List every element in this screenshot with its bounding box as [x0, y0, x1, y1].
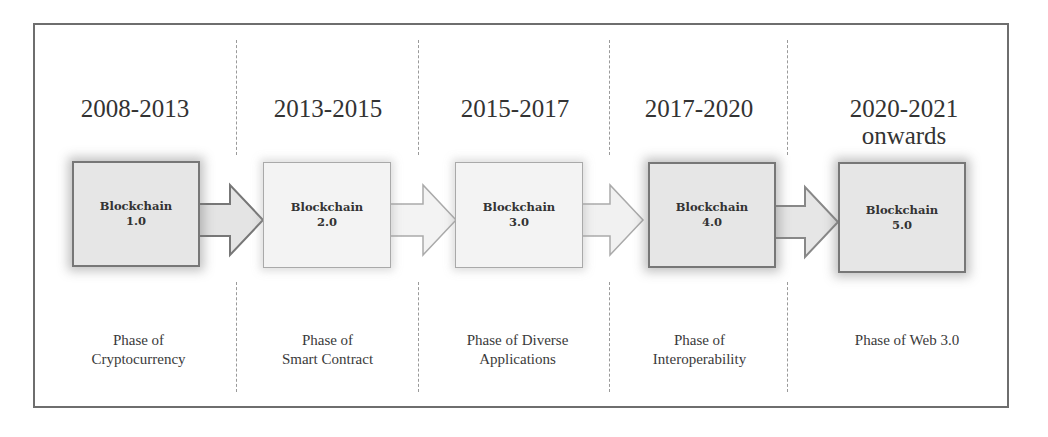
phase-label-5-line1: Phase of Web 3.0	[812, 331, 1002, 350]
stage-box-3-title: Blockchain	[483, 200, 555, 215]
divider-4-bottom	[787, 282, 788, 392]
phase-label-2: Phase of Smart Contract	[240, 331, 415, 369]
arrow-right-icon-3	[575, 185, 647, 255]
divider-3-bottom	[609, 282, 610, 392]
phase-label-2-line1: Phase of	[240, 331, 415, 350]
stage-box-1-version: 1.0	[126, 214, 146, 229]
stage-box-blockchain-4: Blockchain 4.0	[648, 162, 776, 268]
stage-box-blockchain-2: Blockchain 2.0	[263, 162, 391, 268]
divider-1-bottom	[236, 282, 237, 392]
phase-label-1-line2: Cryptocurrency	[51, 350, 226, 369]
period-label-1: 2008-2013	[50, 95, 220, 122]
stage-box-1-title: Blockchain	[100, 199, 172, 214]
divider-1-top	[236, 40, 237, 155]
stage-box-blockchain-5: Blockchain 5.0	[838, 162, 966, 273]
stage-box-blockchain-3: Blockchain 3.0	[455, 162, 583, 268]
divider-4-top	[787, 40, 788, 155]
phase-label-3: Phase of Diverse Applications	[430, 331, 605, 369]
period-label-3: 2015-2017	[430, 95, 600, 122]
phase-label-3-line2: Applications	[430, 350, 605, 369]
stage-box-4-title: Blockchain	[676, 200, 748, 215]
stage-box-5-version: 5.0	[892, 218, 912, 233]
arrow-right-icon-2	[388, 185, 460, 255]
arrow-right-icon-4	[770, 187, 842, 257]
phase-label-1: Phase of Cryptocurrency	[51, 331, 226, 369]
divider-2-top	[418, 40, 419, 155]
stage-box-2-title: Blockchain	[291, 200, 363, 215]
stage-box-2-version: 2.0	[317, 215, 337, 230]
period-label-5-line2: onwards	[819, 122, 989, 149]
phase-label-2-line2: Smart Contract	[240, 350, 415, 369]
stage-box-blockchain-1: Blockchain 1.0	[72, 161, 200, 267]
phase-label-4: Phase of Interoperability	[612, 331, 787, 369]
phase-label-3-line1: Phase of Diverse	[430, 331, 605, 350]
phase-label-4-line2: Interoperability	[612, 350, 787, 369]
phase-label-5: Phase of Web 3.0	[812, 331, 1002, 350]
phase-label-4-line1: Phase of	[612, 331, 787, 350]
divider-2-bottom	[418, 282, 419, 392]
period-label-4: 2017-2020	[614, 95, 784, 122]
phase-label-1-line1: Phase of	[51, 331, 226, 350]
arrow-right-icon-1	[195, 185, 267, 255]
period-label-2: 2013-2015	[243, 95, 413, 122]
stage-box-3-version: 3.0	[509, 215, 529, 230]
stage-box-5-title: Blockchain	[866, 203, 938, 218]
period-label-5: 2020-2021 onwards	[819, 95, 989, 149]
divider-3-top	[609, 40, 610, 155]
period-label-5-line1: 2020-2021	[819, 95, 989, 122]
stage-box-4-version: 4.0	[702, 215, 722, 230]
